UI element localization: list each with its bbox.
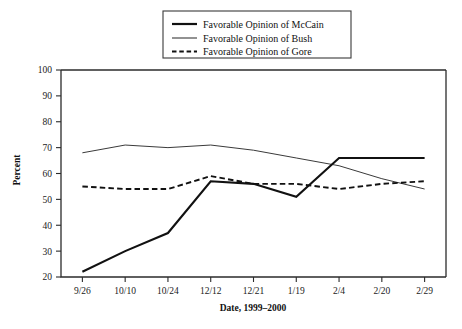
x-axis-ticks: 9/2610/1010/2412/1212/211/192/42/202/29 [74,277,433,296]
y-tick-label: 70 [43,143,53,153]
series-line-mccain [82,158,424,272]
legend-label-gore: Favorable Opinion of Gore [203,46,312,57]
y-tick-label: 20 [43,272,53,282]
x-tick-label: 12/21 [243,286,265,296]
y-tick-label: 90 [43,91,53,101]
x-tick-label: 9/26 [74,286,91,296]
x-axis-title: Date, 1999–2000 [220,303,287,313]
y-tick-label: 100 [38,65,53,75]
x-tick-label: 10/10 [114,286,136,296]
y-axis-title: Percent [12,154,22,186]
y-tick-label: 50 [43,195,53,205]
x-tick-label: 10/24 [157,286,179,296]
line-chart: Favorable Opinion of McCain Favorable Op… [0,0,462,329]
y-axis-ticks: 2030405060708090100 [38,65,61,282]
axis-lines [61,70,446,277]
chart-legend: Favorable Opinion of McCain Favorable Op… [163,11,351,58]
x-tick-label: 1/19 [288,286,305,296]
y-tick-label: 60 [43,169,53,179]
series-line-gore [82,176,424,189]
legend-label-bush: Favorable Opinion of Bush [203,33,312,44]
x-tick-label: 2/4 [333,286,345,296]
series-line-bush [82,145,424,189]
legend-label-mccain: Favorable Opinion of McCain [203,19,324,30]
y-tick-label: 40 [43,221,53,231]
y-tick-label: 30 [43,247,53,257]
x-tick-label: 2/20 [373,286,390,296]
x-tick-label: 2/29 [416,286,433,296]
chart-container: Favorable Opinion of McCain Favorable Op… [0,0,462,329]
x-tick-label: 12/12 [200,286,222,296]
y-tick-label: 80 [43,117,53,127]
